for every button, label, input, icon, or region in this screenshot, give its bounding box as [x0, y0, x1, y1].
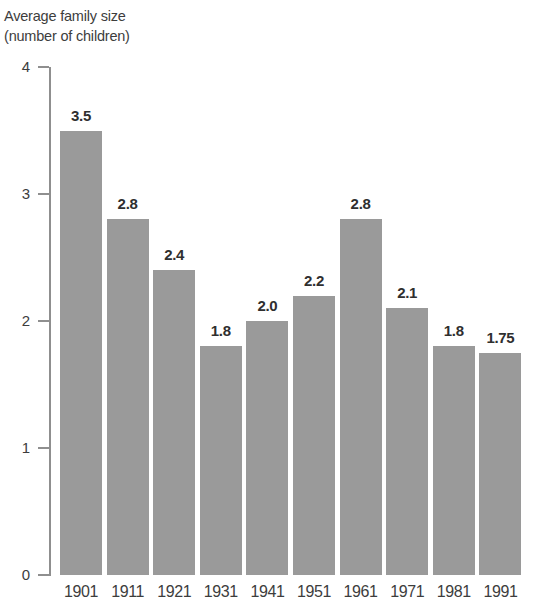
- bar: [107, 219, 149, 575]
- bar-value-label: 1.75: [470, 330, 530, 345]
- chart-title: Average family size (number of children): [4, 6, 130, 46]
- bar: [60, 131, 102, 576]
- y-axis-tick-mark: [38, 320, 49, 322]
- bar-value-label: 2.8: [98, 196, 158, 211]
- y-axis-tick-label: 3: [2, 186, 30, 201]
- x-axis-category-label: 1991: [470, 583, 530, 601]
- y-axis-line: [49, 67, 51, 576]
- bar-value-label: 1.8: [191, 323, 251, 338]
- bar-value-label: 2.0: [237, 298, 297, 313]
- bar-chart: Average family size (number of children)…: [0, 0, 533, 612]
- bar-value-label: 2.4: [144, 247, 204, 262]
- bar: [433, 346, 475, 575]
- bar: [246, 321, 288, 575]
- bar: [293, 296, 335, 575]
- y-axis-tick-label: 2: [2, 313, 30, 328]
- chart-title-line-2: (number of children): [4, 26, 130, 46]
- y-axis-tick-mark: [38, 66, 49, 68]
- bar-value-label: 2.8: [331, 196, 391, 211]
- bar-value-label: 2.2: [284, 273, 344, 288]
- y-axis-tick-label: 0: [2, 567, 30, 582]
- bar-value-label: 2.1: [377, 285, 437, 300]
- y-axis-tick-label: 1: [2, 440, 30, 455]
- bar: [200, 346, 242, 575]
- bar: [386, 308, 428, 575]
- bar: [340, 219, 382, 575]
- chart-title-line-1: Average family size: [4, 6, 130, 26]
- bar: [479, 353, 521, 575]
- bar-value-label: 3.5: [51, 108, 111, 123]
- y-axis-tick-mark: [38, 193, 49, 195]
- y-axis-tick-mark: [38, 447, 49, 449]
- bar: [153, 270, 195, 575]
- y-axis-tick-mark: [38, 574, 49, 576]
- y-axis-tick-label: 4: [2, 59, 30, 74]
